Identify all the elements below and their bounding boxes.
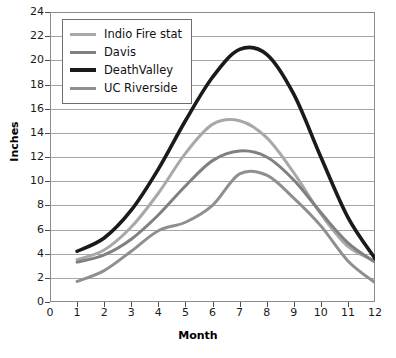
gridline	[51, 109, 374, 110]
x-tick-label: 5	[173, 306, 197, 319]
y-tick-mark	[45, 181, 50, 182]
gridline	[51, 133, 374, 134]
x-tick-mark	[77, 302, 78, 307]
x-tick-label: 10	[309, 306, 333, 319]
legend-label-uc-riverside: UC Riverside	[104, 81, 177, 95]
y-tick-mark	[45, 302, 50, 303]
gridline	[51, 205, 374, 206]
y-tick-label: 14	[18, 128, 44, 138]
x-tick-label: 8	[255, 306, 279, 319]
legend-item: Indio Fire stat	[70, 25, 182, 43]
x-tick-mark	[321, 302, 322, 307]
y-tick-label: 10	[18, 176, 44, 186]
legend-item: UC Riverside	[70, 79, 182, 97]
gridline	[51, 157, 374, 158]
x-tick-mark	[294, 302, 295, 307]
x-axis-title: Month	[0, 329, 396, 342]
x-tick-mark	[185, 302, 186, 307]
x-tick-label: 9	[282, 306, 306, 319]
y-tick-label: 2	[18, 273, 44, 283]
y-tick-mark	[45, 12, 50, 13]
gridline	[51, 181, 374, 182]
legend-swatch-davis	[70, 51, 96, 54]
y-tick-label: 18	[18, 80, 44, 90]
x-tick-label: 1	[65, 306, 89, 319]
y-tick-mark	[45, 109, 50, 110]
y-tick-label: 12	[18, 152, 44, 162]
x-tick-label: 4	[146, 306, 170, 319]
x-tick-mark	[213, 302, 214, 307]
y-tick-label: 6	[18, 225, 44, 235]
y-tick-mark	[45, 60, 50, 61]
legend-swatch-indio-fire-stat	[70, 33, 96, 36]
legend-label-deathvalley: DeathValley	[104, 63, 173, 77]
legend-label-davis: Davis	[104, 45, 136, 59]
y-tick-mark	[45, 230, 50, 231]
x-tick-label: 11	[336, 306, 360, 319]
x-tick-mark	[158, 302, 159, 307]
legend-label-indio-fire-stat: Indio Fire stat	[104, 27, 182, 41]
x-tick-mark	[267, 302, 268, 307]
y-tick-mark	[45, 157, 50, 158]
y-tick-mark	[45, 205, 50, 206]
y-tick-label: 8	[18, 200, 44, 210]
y-tick-label: 4	[18, 249, 44, 259]
x-tick-mark	[348, 302, 349, 307]
x-tick-label: 7	[228, 306, 252, 319]
chart-legend: Indio Fire stat Davis DeathValley UC Riv…	[62, 19, 192, 104]
legend-swatch-deathvalley	[70, 68, 96, 72]
y-tick-label: 20	[18, 55, 44, 65]
x-tick-mark	[131, 302, 132, 307]
y-tick-mark	[45, 133, 50, 134]
y-tick-mark	[45, 254, 50, 255]
gridline	[51, 254, 374, 255]
y-tick-mark	[45, 85, 50, 86]
gridline	[51, 278, 374, 279]
legend-item: Davis	[70, 43, 182, 61]
x-tick-label: 6	[201, 306, 225, 319]
y-tick-label: 24	[18, 7, 44, 17]
y-tick-label: 22	[18, 31, 44, 41]
x-tick-mark	[104, 302, 105, 307]
x-tick-label: 0	[38, 306, 62, 319]
gridline	[51, 230, 374, 231]
x-tick-label: 2	[92, 306, 116, 319]
x-tick-label: 12	[363, 306, 387, 319]
x-tick-label: 3	[119, 306, 143, 319]
legend-item: DeathValley	[70, 61, 182, 79]
y-tick-label: 16	[18, 104, 44, 114]
y-tick-mark	[45, 278, 50, 279]
y-tick-mark	[45, 36, 50, 37]
legend-swatch-uc-riverside	[70, 87, 96, 90]
line-chart: Inches Month Indio Fire stat Davis Death…	[0, 0, 396, 358]
x-tick-mark	[240, 302, 241, 307]
